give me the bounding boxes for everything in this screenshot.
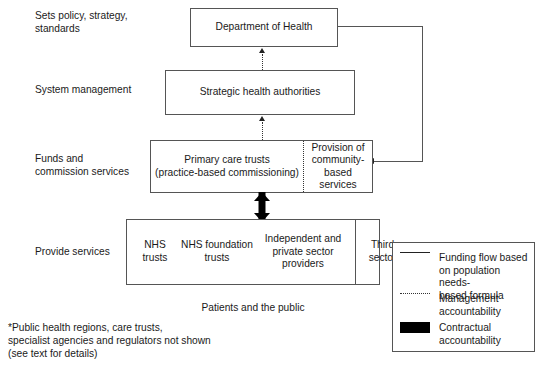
box-strategic-health-authorities: Strategic health authorities [165,70,355,115]
box-provision-community-services-label: Provision of community- based services [308,142,367,191]
funding-flow-segment-bottom [373,161,423,162]
legend-key-solid-line [397,252,433,253]
box-primary-care-trusts-label: Primary care trusts (practice-based comm… [152,154,302,179]
box-primary-care-trusts: Primary care trusts (practice-based comm… [151,141,303,192]
legend-item-management-accountability: Management accountability [397,293,533,318]
caption-patients-and-public: Patients and the public [158,302,348,315]
row-label-system-management: System management [35,84,170,97]
legend-item-contractual-accountability: Contractual accountability [397,322,533,347]
management-arrowhead-doh-icon [259,48,265,53]
box-department-of-health: Department of Health [190,8,338,47]
contractual-accountability-double-arrow-icon [247,192,275,222]
row-label-sets-policy: Sets policy, strategy, standards [35,10,170,35]
box-nhs-trusts: NHS trusts [135,239,175,264]
box-strategic-health-authorities-label: Strategic health authorities [197,86,324,99]
legend-key-dotted-line [397,293,433,294]
providers-main-cells: NHS trusts NHS foundation trusts Indepen… [127,220,355,284]
legend-label-management-accountability: Management accountability [433,293,501,318]
box-providers-group: NHS trusts NHS foundation trusts Indepen… [126,219,380,285]
nhs-structure-diagram: Sets policy, strategy, standards System … [0,0,543,372]
management-arrowhead-sha-icon [259,116,265,121]
legend-label-contractual-accountability: Contractual accountability [433,322,501,347]
management-line-sha-to-doh [262,54,263,70]
management-line-pct-to-sha [262,122,263,140]
legend-key-black-block [397,322,433,333]
solid-line-icon [400,252,430,253]
funding-flow-segment-right [422,26,423,162]
footnote-text: *Public health regions, care trusts, spe… [8,322,268,360]
box-independent-private-providers: Independent and private sector providers [259,233,347,271]
black-block-icon [400,322,430,333]
box-primary-care-trusts-group: Primary care trusts (practice-based comm… [150,140,373,193]
dotted-line-icon [400,293,430,294]
funding-flow-segment-top [338,26,423,27]
box-nhs-foundation-trusts: NHS foundation trusts [175,239,259,264]
legend-panel: Funding flow based on population needs- … [392,242,535,352]
box-provision-community-services: Provision of community- based services [304,141,372,192]
box-department-of-health-label: Department of Health [213,21,316,34]
